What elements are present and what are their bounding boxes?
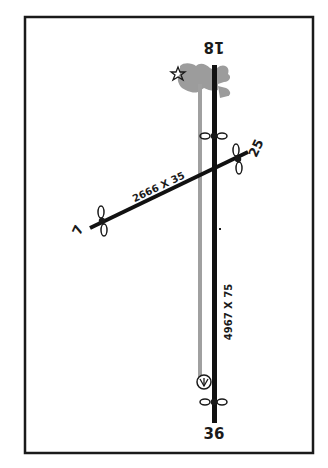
runway-mark [219,228,221,230]
ramp-area [178,63,230,98]
runway-7-25 [90,152,248,228]
runway-end-label-7: 7 [69,223,86,238]
airport-diagram: 18 36 7 25 2666 X 35 4967 X 75 [0,0,328,468]
runway-end-label-36: 36 [204,425,225,443]
runway-end-label-25: 25 [245,137,266,160]
runway-end-label-18: 18 [204,38,225,56]
runway-end-lights-icon [200,133,227,139]
wind-cone-icon [197,375,211,389]
diagram-frame [25,17,313,453]
runway-18-36 [212,65,217,423]
parallel-taxiway [198,84,202,384]
runway-18-36-dimensions: 4967 X 75 [223,284,234,340]
runway-end-lights-icon [200,399,227,405]
